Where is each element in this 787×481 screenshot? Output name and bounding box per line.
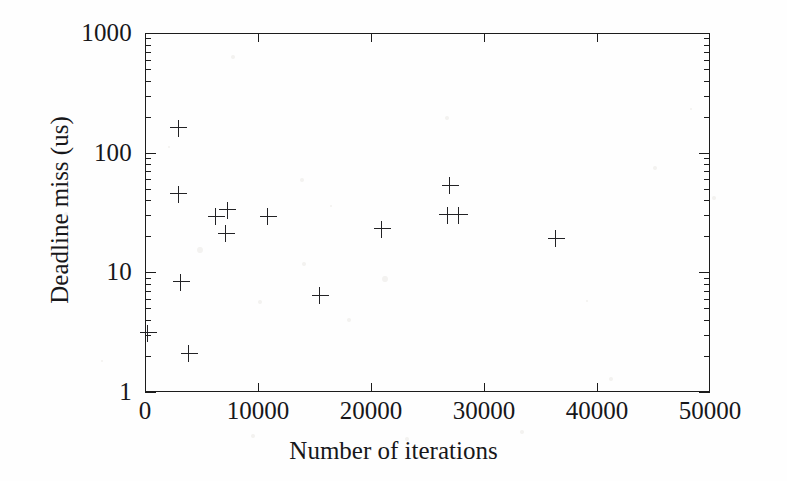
y-tick-minor-right — [704, 164, 710, 165]
x-tick-label: 0 — [85, 398, 205, 423]
y-tick-minor — [145, 179, 151, 180]
x-tick-label: 10000 — [198, 398, 318, 423]
y-tick-minor-right — [704, 52, 710, 53]
y-tick-major — [145, 153, 156, 154]
y-tick-label: 10 — [107, 259, 132, 284]
y-tick-minor-right — [704, 320, 710, 321]
y-tick-minor-right — [704, 291, 710, 292]
y-tick-minor — [145, 60, 151, 61]
data-point-marker — [170, 120, 187, 137]
y-tick-minor-right — [704, 189, 710, 190]
y-tick-minor — [145, 164, 151, 165]
x-tick-label: 40000 — [537, 398, 657, 423]
y-tick-minor-right — [704, 117, 710, 118]
y-tick-major — [145, 272, 156, 273]
y-tick-minor — [145, 81, 151, 82]
x-axis-title: Number of iterations — [0, 437, 787, 465]
data-point-marker — [442, 177, 459, 194]
x-tick-top — [371, 33, 372, 42]
y-tick-minor — [145, 291, 151, 292]
data-point-marker — [548, 230, 565, 247]
x-tick-top — [258, 33, 259, 42]
y-tick-major-right — [699, 272, 710, 273]
y-tick-minor — [145, 45, 151, 46]
y-axis-title: Deadline miss (us) — [46, 30, 74, 390]
x-tick-bottom — [371, 383, 372, 392]
data-point-marker — [374, 221, 391, 238]
data-point-marker — [181, 345, 198, 362]
noise-speck — [101, 360, 103, 362]
y-tick-minor — [145, 320, 151, 321]
plot-area — [145, 33, 710, 392]
y-tick-minor — [145, 299, 151, 300]
x-tick-label: 30000 — [424, 398, 544, 423]
y-tick-minor-right — [704, 308, 710, 309]
y-tick-minor-right — [704, 200, 710, 201]
y-tick-minor-right — [704, 179, 710, 180]
y-tick-minor — [145, 284, 151, 285]
y-tick-minor-right — [704, 96, 710, 97]
y-tick-minor — [145, 308, 151, 309]
y-tick-minor-right — [704, 215, 710, 216]
y-tick-major-right — [699, 33, 710, 34]
y-tick-major — [145, 392, 156, 393]
y-tick-minor-right — [704, 278, 710, 279]
y-tick-minor — [145, 236, 151, 237]
x-tick-bottom — [258, 383, 259, 392]
y-tick-minor-right — [704, 335, 710, 336]
x-tick-label: 50000 — [650, 398, 770, 423]
y-tick-minor-right — [704, 171, 710, 172]
y-tick-minor — [145, 200, 151, 201]
y-tick-major-right — [699, 392, 710, 393]
y-tick-minor-right — [704, 60, 710, 61]
y-tick-minor-right — [704, 81, 710, 82]
data-point-marker — [451, 207, 468, 224]
y-tick-minor-right — [704, 284, 710, 285]
y-tick-minor-right — [704, 69, 710, 70]
y-tick-minor — [145, 117, 151, 118]
x-tick-bottom — [484, 383, 485, 392]
y-tick-minor — [145, 215, 151, 216]
x-tick-bottom — [597, 383, 598, 392]
y-tick-minor — [145, 96, 151, 97]
y-tick-minor — [145, 278, 151, 279]
y-tick-minor — [145, 38, 151, 39]
y-tick-label: 100 — [94, 140, 132, 165]
data-point-marker — [218, 225, 235, 242]
data-point-marker — [260, 208, 277, 225]
y-tick-minor — [145, 189, 151, 190]
y-tick-minor-right — [704, 158, 710, 159]
noise-speck — [712, 196, 716, 200]
y-tick-minor — [145, 158, 151, 159]
data-point-marker — [170, 186, 187, 203]
figure-canvas: 1101001000 01000020000300004000050000 De… — [0, 0, 787, 481]
x-tick-label: 20000 — [311, 398, 431, 423]
y-tick-minor — [145, 356, 151, 357]
y-tick-minor-right — [704, 236, 710, 237]
y-tick-minor — [145, 69, 151, 70]
data-point-marker — [173, 274, 190, 291]
y-tick-major — [145, 33, 156, 34]
y-tick-minor-right — [704, 356, 710, 357]
y-tick-label: 1000 — [81, 20, 132, 45]
data-point-marker — [219, 202, 236, 219]
x-tick-top — [597, 33, 598, 42]
y-tick-minor — [145, 52, 151, 53]
y-tick-minor-right — [704, 299, 710, 300]
data-point-marker — [140, 325, 157, 342]
y-tick-minor — [145, 171, 151, 172]
noise-speck — [520, 430, 524, 434]
x-tick-top — [484, 33, 485, 42]
y-tick-major-right — [699, 153, 710, 154]
y-tick-minor-right — [704, 45, 710, 46]
data-point-marker — [312, 287, 329, 304]
y-tick-minor-right — [704, 38, 710, 39]
